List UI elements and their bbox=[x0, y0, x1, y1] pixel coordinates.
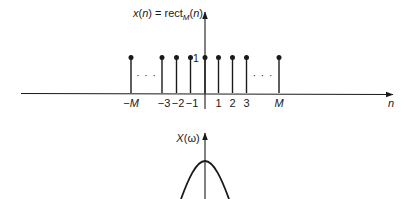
n-axis bbox=[21, 94, 393, 95]
stem-neg-2 bbox=[175, 56, 179, 93]
tick-label-neg-3: −3 bbox=[158, 97, 171, 109]
top-stem-plot: x(n) = rectM(n) 1 · · · · · · −M −3 −2 −… bbox=[21, 7, 394, 109]
bottom-spectrum-plot: X(ω) bbox=[175, 132, 229, 199]
tick-label-1: 1 bbox=[215, 97, 221, 109]
tick-label-neg-m: −M bbox=[123, 97, 139, 109]
x-omega-label: X(ω) bbox=[175, 132, 199, 144]
tick-label-3: 3 bbox=[243, 97, 249, 109]
tick-labels: −M −3 −2 −1 1 2 3 M bbox=[123, 97, 284, 109]
ellipsis-right: · · · bbox=[253, 70, 274, 81]
ellipsis-left: · · · bbox=[136, 70, 157, 81]
stem-neg-3 bbox=[160, 56, 164, 93]
tick-label-neg-1: −1 bbox=[186, 97, 199, 109]
stem-2 bbox=[231, 56, 235, 93]
rect-signal-figure: x(n) = rectM(n) 1 · · · · · · −M −3 −2 −… bbox=[0, 0, 414, 199]
n-axis-label: n bbox=[388, 97, 394, 109]
stem-m bbox=[277, 56, 281, 93]
stem-0 bbox=[203, 56, 207, 93]
stem-1 bbox=[217, 56, 221, 93]
stem-neg-m bbox=[129, 56, 133, 93]
stem-3 bbox=[245, 56, 249, 93]
tick-label-neg-2: −2 bbox=[172, 97, 185, 109]
amplitude-label: 1 bbox=[193, 52, 199, 64]
tick-label-m: M bbox=[274, 97, 284, 109]
stem-neg-1 bbox=[189, 56, 193, 93]
tick-label-2: 2 bbox=[229, 97, 235, 109]
y-axis-label: x(n) = rectM(n) bbox=[132, 7, 203, 22]
